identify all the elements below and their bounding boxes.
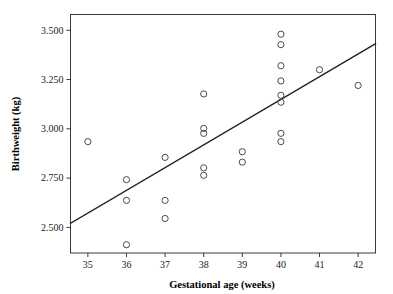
y-axis-title: Birthweight (kg) xyxy=(10,96,22,171)
x-tick-label: 37 xyxy=(160,259,170,270)
x-axis-title: Gestational age (weeks) xyxy=(169,279,275,291)
scatter-plot-figure: 2.5002.7503.0003.2503.500 35363738394041… xyxy=(0,0,393,294)
y-tick-label: 3.250 xyxy=(41,74,64,85)
chart-canvas: 2.5002.7503.0003.2503.500 35363738394041… xyxy=(0,0,393,294)
x-tick-label: 39 xyxy=(237,259,247,270)
x-tick-label: 40 xyxy=(276,259,286,270)
y-tick-label: 3.500 xyxy=(41,25,64,36)
x-tick-label: 41 xyxy=(315,259,325,270)
y-tick-label: 2.500 xyxy=(41,222,64,233)
y-tick-label: 2.750 xyxy=(41,172,64,183)
x-tick-label: 42 xyxy=(353,259,363,270)
x-tick-label: 35 xyxy=(83,259,93,270)
y-tick-label: 3.000 xyxy=(41,123,64,134)
chart-background xyxy=(0,0,393,294)
x-tick-label: 36 xyxy=(121,259,131,270)
x-tick-label: 38 xyxy=(199,259,209,270)
